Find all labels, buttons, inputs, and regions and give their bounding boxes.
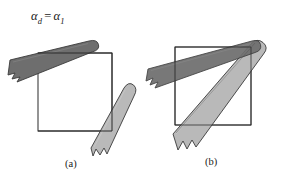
figure-container: αd=α1 (a) (b): [0, 0, 283, 181]
angle-equality-label: αd=α1: [31, 9, 65, 26]
panel-label-a: (a): [65, 158, 77, 169]
alpha-1-subscript: 1: [60, 16, 64, 26]
alpha-d-symbol: α: [31, 9, 38, 23]
panel-b-group: [146, 40, 266, 150]
panel-label-b: (b): [205, 156, 217, 167]
panel-a-group: [8, 40, 136, 156]
equals-sign: =: [42, 9, 53, 23]
figure-drawing: [0, 0, 283, 181]
